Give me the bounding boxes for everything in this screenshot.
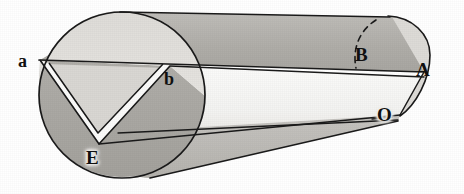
label-b: b — [164, 70, 174, 88]
cylinder-diagram — [0, 0, 464, 194]
label-A: A — [416, 60, 430, 79]
label-O: O — [377, 105, 392, 124]
near-circular-face — [39, 11, 205, 178]
label-B: B — [355, 45, 368, 64]
figure-canvas: a b B A O E — [0, 0, 464, 194]
label-a: a — [18, 52, 27, 70]
label-E: E — [86, 148, 99, 167]
